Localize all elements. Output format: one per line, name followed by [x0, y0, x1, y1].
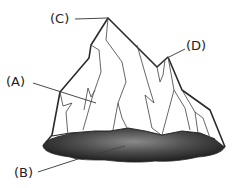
iceberg-illustration — [0, 0, 237, 188]
label-d: (D) — [186, 39, 206, 52]
leader-c — [75, 18, 108, 19]
label-b: (B) — [14, 166, 33, 179]
label-a: (A) — [6, 75, 25, 88]
leader-b — [38, 159, 78, 172]
label-c: (C) — [50, 12, 69, 25]
iceberg-diagram: (C) (D) (A) (B) — [0, 0, 237, 188]
leader-d — [169, 49, 185, 57]
